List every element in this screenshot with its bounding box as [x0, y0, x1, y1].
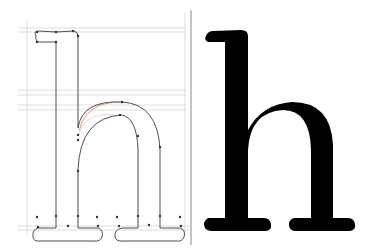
guidelines: [18, 12, 190, 235]
highlight-curve: [79, 102, 120, 131]
glyph-construction-diagram: h: [0, 0, 369, 251]
filled-glyph-h: [204, 30, 355, 231]
glyph-outline: [33, 31, 185, 241]
